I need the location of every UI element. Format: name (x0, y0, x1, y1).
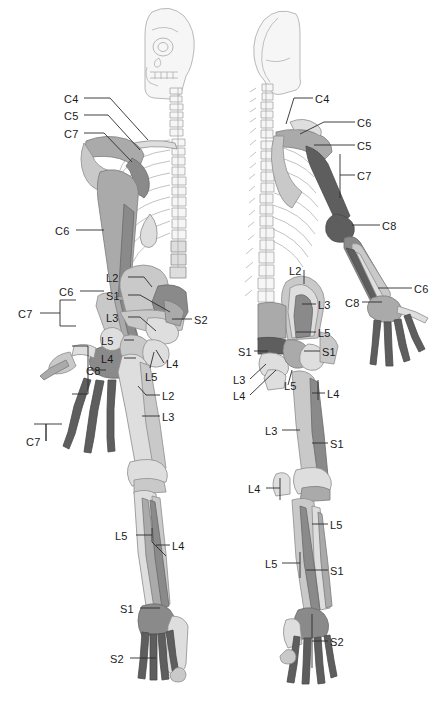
label-a-l4-hip: L4 (101, 354, 114, 365)
label-p-l5-pelvis: L5 (284, 381, 297, 392)
label-p-l5-hip: L5 (318, 328, 331, 339)
label-a-s2-toes: S2 (110, 654, 124, 665)
label-p-l3-thigh: L3 (265, 426, 278, 437)
posterior-foot (280, 608, 337, 684)
label-p-c7-arm: C7 (357, 171, 371, 182)
anterior-foot (138, 604, 188, 682)
label-p-l4-femur: L4 (327, 389, 340, 400)
anterior-spine (170, 88, 186, 278)
label-p-c8-elbow: C8 (382, 221, 396, 232)
label-p-s2-foot: S2 (330, 637, 344, 648)
posterior-shoulder-arm (271, 119, 354, 242)
label-p-s1-left: S1 (238, 347, 252, 358)
label-p-c8-forearm: C8 (345, 298, 359, 309)
label-a-c7-shoulder: C7 (64, 129, 78, 140)
skeleton-illustration: .gh{fill:#f6f6f6;stroke:#a7a7a7;stroke-w… (0, 0, 443, 713)
label-a-s2-sacrum: S2 (194, 315, 208, 326)
label-p-c4: C4 (315, 94, 329, 105)
anterior-skull (145, 8, 194, 99)
label-p-l3-ilium: L3 (318, 300, 331, 311)
label-a-c5: C5 (64, 111, 78, 122)
label-p-l3-pelvis: L3 (233, 375, 246, 386)
label-a-l3-thigh: L3 (162, 412, 175, 423)
label-a-c6-arm: C6 (55, 226, 69, 237)
label-a-c6-forearm: C6 (59, 287, 73, 298)
posterior-skeleton (245, 11, 428, 684)
label-a-l3-ilium: L3 (106, 313, 119, 324)
label-p-c6-forearm: C6 (414, 284, 428, 295)
posterior-thigh (273, 371, 331, 502)
label-a-l2-ilium: L2 (106, 273, 119, 284)
posterior-spine (245, 84, 274, 304)
posterior-forearm (344, 237, 390, 302)
label-a-l5-femur: L5 (145, 372, 158, 383)
posterior-hand (367, 296, 428, 366)
label-p-l4-pelvis: L4 (233, 391, 246, 402)
label-p-l4-knee: L4 (248, 484, 261, 495)
label-a-c4: C4 (64, 94, 78, 105)
label-a-c8-hand: C8 (86, 366, 100, 377)
label-p-s1-leg: S1 (330, 566, 344, 577)
anterior-thigh (118, 354, 167, 494)
label-a-c7-digits: C7 (26, 437, 40, 448)
anatomical-diagram: .gh{fill:#f6f6f6;stroke:#a7a7a7;stroke-w… (0, 0, 443, 713)
label-a-l4-femur: L4 (166, 359, 179, 370)
label-p-c6-shoulder: C6 (357, 118, 371, 129)
label-p-c5: C5 (357, 141, 371, 152)
label-p-l2-ilium: L2 (289, 266, 302, 277)
posterior-leg (292, 498, 332, 612)
label-a-l4-leg: L4 (172, 541, 185, 552)
label-a-s1-ilium: S1 (106, 291, 120, 302)
label-a-c7-forearm: C7 (18, 309, 32, 320)
label-p-s1-right: S1 (322, 347, 336, 358)
anterior-leg (134, 490, 170, 608)
label-a-l2-thigh: L2 (162, 391, 175, 402)
label-a-l5-leg: L5 (115, 531, 128, 542)
posterior-skull (254, 11, 301, 94)
label-a-s1-ankle: S1 (120, 604, 134, 615)
label-p-l5-knee: L5 (330, 520, 343, 531)
label-a-l5-hip: L5 (101, 336, 114, 347)
label-p-l5-leg: L5 (265, 559, 278, 570)
label-p-s1-thigh: S1 (330, 439, 344, 450)
